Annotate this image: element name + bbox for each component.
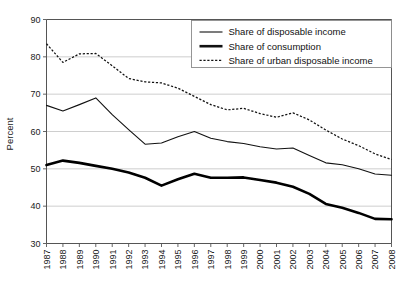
x-tick-label: 1995 (173, 250, 183, 270)
x-tick-label: 1998 (223, 250, 233, 270)
x-tick-label: 2007 (370, 250, 380, 270)
x-tick-label: 2006 (354, 250, 364, 270)
legend-label: Share of consumption (229, 41, 321, 52)
y-axis-ticks: 30405060708090 (30, 15, 46, 249)
x-tick-label: 1996 (190, 250, 200, 270)
series-line-disposable-income (47, 98, 392, 175)
line-chart: 30405060708090 1987198819891990199119921… (0, 0, 413, 287)
x-tick-label: 1999 (239, 250, 249, 270)
y-tick-label: 80 (30, 52, 40, 62)
x-tick-label: 2005 (338, 250, 348, 270)
y-tick-label: 60 (30, 127, 40, 137)
legend-label: Share of disposable income (229, 26, 346, 37)
x-tick-label: 1994 (157, 250, 167, 270)
x-tick-label: 2004 (321, 250, 331, 270)
legend-label: Share of urban disposable income (229, 55, 373, 66)
x-axis-ticks: 1987198819891990199119921993199419951996… (42, 244, 397, 270)
x-tick-label: 1993 (140, 250, 150, 270)
x-tick-label: 1992 (124, 250, 134, 270)
y-tick-label: 50 (30, 164, 40, 174)
x-tick-label: 1988 (58, 250, 68, 270)
y-tick-label: 30 (30, 239, 40, 249)
x-tick-label: 2002 (288, 250, 298, 270)
x-tick-label: 2003 (305, 250, 315, 270)
x-tick-label: 2000 (255, 250, 265, 270)
x-tick-label: 1997 (206, 250, 216, 270)
x-tick-label: 2001 (272, 250, 282, 270)
y-tick-label: 90 (30, 15, 40, 25)
chart-legend: Share of disposable incomeShare of consu… (192, 21, 392, 68)
x-tick-label: 1991 (108, 250, 118, 270)
x-tick-label: 2008 (387, 250, 397, 270)
y-tick-label: 40 (30, 201, 40, 211)
x-tick-label: 1989 (75, 250, 85, 270)
y-axis-title: Percent (4, 117, 15, 150)
chart-container: 30405060708090 1987198819891990199119921… (0, 0, 413, 287)
x-tick-label: 1987 (42, 250, 52, 270)
y-tick-label: 70 (30, 89, 40, 99)
series-line-consumption (47, 161, 392, 220)
x-tick-label: 1990 (91, 250, 101, 270)
